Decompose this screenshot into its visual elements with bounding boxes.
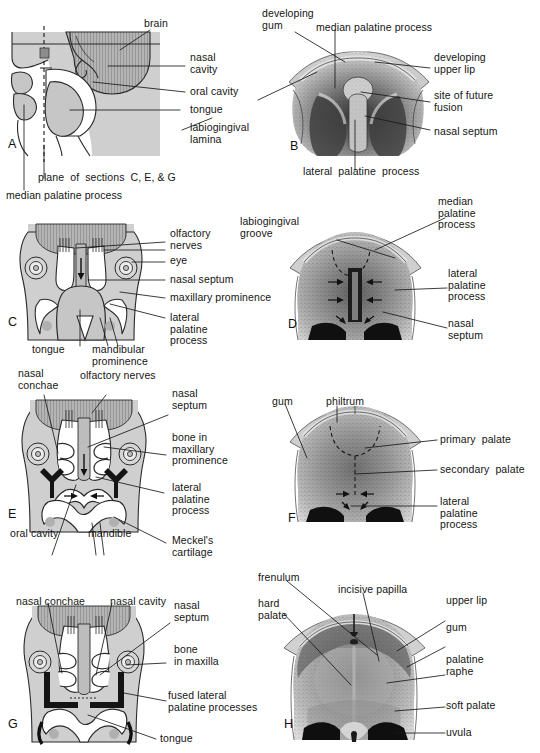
label-gum-f: gum (272, 396, 312, 408)
label-lateral-palatine-process-c: lateral palatine process (170, 312, 250, 347)
label-meckels-cartilage: Meckel's cartilage (172, 535, 252, 558)
label-tongue-g: tongue (160, 733, 230, 745)
label-uvula: uvula (446, 727, 496, 739)
label-secondary-palate: secondary palate (440, 464, 540, 476)
label-lateral-palatine-process-f: lateral palatine process (440, 496, 520, 531)
label-palatine-raphe: palatine raphe (446, 654, 516, 677)
label-gum-h: gum (446, 622, 496, 634)
label-olfactory-nerves-e: olfactory nerves (80, 370, 190, 382)
label-developing-upper-lip: developing upper lip (434, 52, 534, 75)
label-nasal-septum-g: nasal septum (174, 600, 244, 623)
figure-canvas: A brain nasal cavity oral cavity tongue … (0, 0, 540, 753)
label-plane-of-sections: plane of sections C, E, & G (38, 172, 238, 184)
label-nasal-septum-b: nasal septum (434, 126, 534, 138)
label-lateral-palatine-process-d: lateral palatine process (448, 268, 528, 303)
label-median-palatine-process-b: median palatine process (316, 22, 466, 34)
label-brain: brain (126, 18, 186, 30)
label-nasal-cavity-a: nasal cavity (190, 52, 260, 75)
label-labiogingival-groove: labiogingival groove (240, 216, 325, 239)
label-nasal-septum-d: nasal septum (448, 318, 518, 341)
label-upper-lip: upper lip (446, 595, 516, 607)
label-median-palatine-process-d: median palatine process (438, 196, 518, 231)
label-mandibular-prominence: mandibular prominence (92, 344, 182, 367)
label-nasal-septum-e: nasal septum (172, 388, 242, 411)
label-tongue-c: tongue (32, 344, 92, 356)
label-primary-palate: primary palate (440, 434, 540, 446)
label-eye: eye (170, 255, 210, 267)
label-philtrum: philtrum (326, 396, 386, 408)
label-bone-in-maxillary-prominence: bone in maxillary prominence (172, 432, 262, 467)
label-mandible: mandible (88, 528, 158, 540)
label-oral-cavity-e: oral cavity (10, 528, 90, 540)
label-olfactory-nerves-c: olfactory nerves (170, 228, 250, 251)
label-soft-palate: soft palate (446, 700, 526, 712)
label-hard-palate: hard palate (258, 598, 308, 621)
label-incisive-papilla: incisive papilla (338, 584, 432, 596)
label-lateral-palatine-process-e: lateral palatine process (172, 482, 252, 517)
label-lateral-palatine-process-b: lateral palatine process (303, 166, 463, 178)
label-site-of-future-fusion: site of future fusion (434, 90, 534, 113)
label-tongue-a: tongue (190, 104, 260, 116)
label-bone-in-maxilla: bone in maxilla (174, 644, 254, 667)
label-nasal-conchae-e: nasal conchae (18, 368, 84, 391)
label-frenulum: frenulum (258, 572, 322, 584)
label-nasal-conchae-g: nasal conchae (16, 596, 116, 608)
